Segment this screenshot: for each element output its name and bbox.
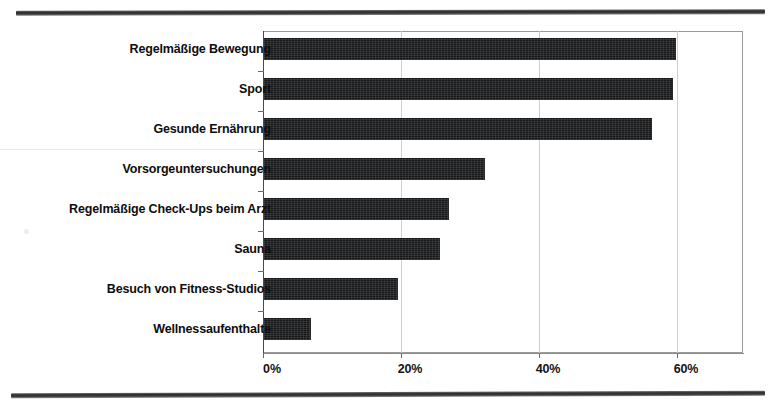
x-axis-tick-label-0: 0% (263, 362, 281, 376)
y-tick (258, 71, 264, 72)
bar-wellnessaufenthalte (264, 318, 311, 340)
x-axis-line (263, 353, 744, 354)
y-tick (258, 191, 264, 192)
y-tick (258, 151, 264, 152)
bar-gesunde-ernaehrung (264, 118, 652, 140)
scan-smudge (0, 149, 262, 150)
y-axis-label-wellnessaufenthalte: Wellnessaufenthalte (153, 322, 271, 336)
y-axis-label-regelmaessige-check-ups-beim-arzt: Regelmäßige Check-Ups beim Arzt (69, 202, 271, 216)
gridline-60 (677, 31, 678, 353)
x-axis-tick-label-40: 40% (536, 362, 561, 376)
bar-vorsorgeuntersuchungen (264, 158, 485, 180)
x-axis-tick-label-60: 60% (674, 362, 699, 376)
scan-smudge (24, 229, 29, 234)
y-tick (258, 311, 264, 312)
bar-besuch-von-fitness-studios (264, 278, 398, 300)
x-tick-20 (401, 353, 402, 358)
bar-sport (264, 78, 673, 100)
y-tick (258, 231, 264, 232)
y-axis-label-besuch-von-fitness-studios: Besuch von Fitness-Studios (107, 282, 271, 296)
x-tick-60 (677, 353, 678, 358)
bar-sauna (264, 238, 440, 260)
y-axis-label-regelmaessige-bewegung: Regelmäßige Bewegung (130, 42, 271, 56)
y-tick (258, 111, 264, 112)
bar-regelmaessige-check-ups-beim-arzt (264, 198, 449, 220)
bar-regelmaessige-bewegung (264, 38, 676, 60)
y-axis-label-gesunde-ernaehrung: Gesunde Ernährung (153, 122, 271, 136)
y-tick (258, 271, 264, 272)
y-axis-label-sport: Sport (239, 82, 271, 96)
horizontal-bar-chart: Regelmäßige Bewegung Sport Gesunde Ernäh… (0, 0, 776, 413)
x-axis-tick-label-20: 20% (398, 362, 423, 376)
y-axis-label-sauna: Sauna (234, 242, 271, 256)
x-tick-0 (263, 353, 264, 358)
y-axis-label-vorsorgeuntersuchungen: Vorsorgeuntersuchungen (122, 162, 271, 176)
x-tick-40 (539, 353, 540, 358)
